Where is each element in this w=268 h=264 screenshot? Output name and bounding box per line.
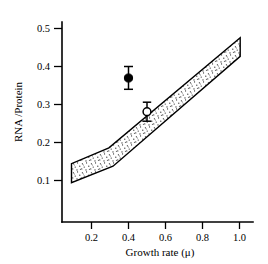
x-axis: 0.2 0.4 0.6 0.8 1.0 Growth rate (μ) xyxy=(62,222,253,259)
y-axis-title: RNA /Protein xyxy=(12,81,24,142)
y-tick-label-0.4: 0.4 xyxy=(37,61,51,72)
y-tick-label-0.5: 0.5 xyxy=(37,23,50,34)
band-polygon xyxy=(72,38,241,183)
x-tick-label-0.2: 0.2 xyxy=(85,232,98,243)
x-tick-label-0.8: 0.8 xyxy=(196,232,209,243)
x-axis-title: Growth rate (μ) xyxy=(126,246,195,259)
chart-figure: 0.5 0.4 0.3 0.2 0.1 RNA /Protein 0.2 0.4… xyxy=(0,0,268,264)
y-axis: 0.5 0.4 0.3 0.2 0.1 RNA /Protein xyxy=(12,22,62,222)
y-tick-label-0.3: 0.3 xyxy=(37,99,50,110)
filled-data-point-group xyxy=(124,67,133,90)
band-region xyxy=(72,38,241,183)
x-tick-label-0.6: 0.6 xyxy=(159,232,172,243)
filled-circle-marker xyxy=(124,74,132,82)
scatter-chart-canvas: 0.5 0.4 0.3 0.2 0.1 RNA /Protein 0.2 0.4… xyxy=(0,0,268,264)
x-tick-label-0.4: 0.4 xyxy=(122,232,136,243)
x-tick-label-1.0: 1.0 xyxy=(233,232,246,243)
y-tick-label-0.2: 0.2 xyxy=(37,137,50,148)
y-tick-label-0.1: 0.1 xyxy=(37,175,50,186)
open-circle-marker xyxy=(143,108,151,116)
